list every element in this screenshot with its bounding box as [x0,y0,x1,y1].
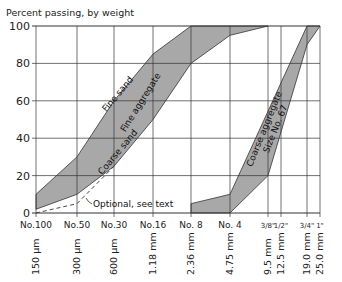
y-tick-label: 20 [16,170,30,183]
x-tick-size: 600 µm [108,239,119,275]
x-tick-size: 25.0 mm [314,232,325,275]
x-tick-size: 150 µm [30,239,41,275]
y-tick-label: 40 [16,132,30,145]
y-tick-label: 80 [16,57,30,70]
x-tick-sieve: No. 8 [179,220,203,230]
x-tick-sieve: No.50 [64,220,91,230]
x-tick-sieve: No.16 [140,220,167,230]
optional-annotation: Optional, see text [93,199,174,209]
x-tick-size: 19.0 mm [301,232,312,275]
y-tick-label: 100 [9,20,30,33]
x-tick-size: 9.5 mm [262,238,273,275]
y-tick-label: 0 [23,207,30,220]
leader-line [86,198,92,204]
x-tick-sieve: No. 4 [218,220,242,230]
x-tick-size: 4.75 mm [224,232,235,275]
coarse-aggregate-band [191,26,320,213]
gradation-chart: 020406080100No.100150 µmNo.50300 µmNo.30… [0,0,342,282]
y-tick-label: 60 [16,95,30,108]
x-tick-sieve: No.30 [101,220,128,230]
fine-aggregate-band [36,26,268,209]
x-tick-sieve: No.100 [20,220,52,230]
x-tick-size: 300 µm [71,239,82,275]
x-tick-size: 2.36 mm [185,232,196,275]
x-tick-size: 12.5 mm [275,232,286,275]
x-tick-size: 1.18 mm [147,232,158,275]
x-tick-sieve: 3/4" [300,222,315,230]
x-tick-sieve: 1" [316,222,324,230]
x-tick-sieve: 1/2" [274,222,289,230]
